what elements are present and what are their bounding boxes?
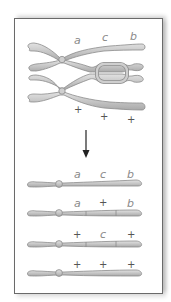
centromere-upper (59, 56, 65, 62)
arrow-down-icon (83, 130, 90, 158)
product-3-label-3: + (127, 230, 135, 240)
product-3-label-1: + (73, 230, 81, 240)
product-chromatid-1 (27, 180, 141, 187)
product-4-label-1: + (73, 260, 81, 270)
product-1-label-3: b (127, 169, 134, 180)
gene-label-bottom-2: + (100, 112, 108, 122)
gene-label-bottom-1: + (74, 105, 82, 115)
product-chromatid-3 (27, 241, 141, 248)
product-1-label-2: c (100, 169, 106, 180)
upper-chromatid-1 (28, 43, 145, 61)
gene-label-top-1: a (74, 35, 81, 46)
product-3-label-2: c (100, 229, 106, 240)
product-4-label-2: + (99, 260, 107, 270)
lower-chromatid-4 (28, 92, 145, 110)
product-chromatid-4 (27, 270, 141, 277)
gene-label-bottom-3: + (127, 115, 135, 125)
gene-label-top-3: b (130, 31, 137, 42)
product-2-label-2: + (99, 198, 107, 208)
product-chromatid-2 (27, 210, 141, 217)
gene-label-top-2: c (102, 32, 108, 43)
product-1-label-1: a (74, 169, 81, 180)
product-2-label-3: b (127, 198, 134, 209)
product-4-label-3: + (127, 260, 135, 270)
crossing-over-diagram (0, 0, 171, 302)
centromere-lower (59, 88, 65, 94)
product-2-label-1: a (74, 198, 81, 209)
